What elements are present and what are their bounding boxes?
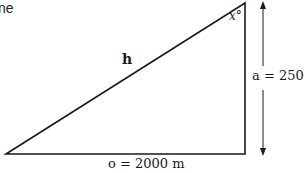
hypotenuse-label: h <box>122 52 132 66</box>
right-triangle <box>6 3 245 154</box>
vertical-side-label: a = 250 m <box>252 68 304 83</box>
arrow-down-icon <box>260 148 266 156</box>
horizontal-side-label: o = 2000 m <box>108 157 185 170</box>
partial-heading-text: ne <box>0 1 14 15</box>
arrow-up-icon <box>260 1 266 9</box>
triangle-figure <box>0 0 304 173</box>
triangle-diagram: ne h x° a = 250 m o = 2000 m <box>0 0 304 173</box>
angle-label: x° <box>229 10 242 22</box>
